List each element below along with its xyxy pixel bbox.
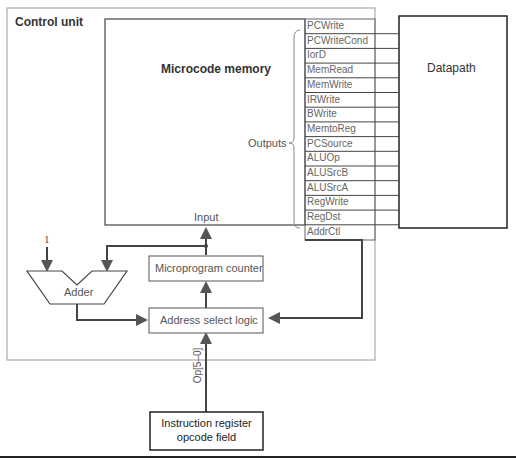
instruction-register-line2: opcode field: [150, 431, 263, 443]
signal-pcwrite: PCWrite: [305, 19, 374, 34]
signal-regdst: RegDst: [305, 210, 374, 225]
signal-memwrite: MemWrite: [305, 78, 374, 93]
microcode-memory-label: Microcode memory: [161, 62, 271, 76]
opcode-bus-label: Op[5–0]: [192, 341, 203, 391]
control-unit-label: Control unit: [15, 15, 83, 29]
datapath-label: Datapath: [427, 61, 476, 75]
microprogram-counter-label: Microprogram counter: [155, 262, 263, 274]
outputs-label: Outputs: [248, 137, 287, 149]
signal-pcsource: PCSource: [305, 137, 374, 152]
signal-memread: MemRead: [305, 63, 374, 78]
adder-label: Adder: [64, 286, 93, 298]
signal-aluop: ALUOp: [305, 151, 374, 166]
instruction-register-line1: Instruction register: [150, 417, 263, 429]
constant-one-label: 1: [44, 233, 50, 245]
signal-memtoreg: MemtoReg: [305, 122, 374, 137]
input-label: Input: [194, 211, 218, 223]
signal-addrctl: AddrCtl: [305, 225, 374, 240]
signal-iord: IorD: [305, 48, 374, 63]
signal-irwrite: IRWrite: [305, 93, 374, 108]
signal-alusrca: ALUSrcA: [305, 181, 374, 196]
signal-pcwritecond: PCWriteCond: [305, 34, 374, 49]
address-select-logic-label: Address select logic: [160, 314, 258, 326]
signal-regwrite: RegWrite: [305, 195, 374, 210]
signal-alusrcb: ALUSrcB: [305, 166, 374, 181]
signal-bwrite: BWrite: [305, 107, 374, 122]
